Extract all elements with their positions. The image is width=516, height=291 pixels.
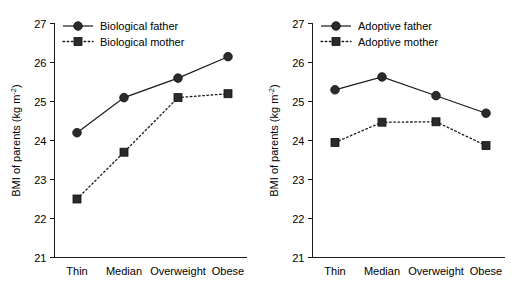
legend-entry: Biological father xyxy=(63,20,179,32)
x-axis-category-label: Thin xyxy=(66,265,87,277)
data-point-marker xyxy=(120,93,129,102)
y-axis-tick-label: 25 xyxy=(292,96,304,108)
x-axis-category-label: Obese xyxy=(212,265,244,277)
data-point-marker xyxy=(432,91,441,100)
y-axis-tick-label: 23 xyxy=(34,174,46,186)
data-point-marker xyxy=(224,52,233,61)
legend-label: Biological mother xyxy=(100,36,185,48)
y-axis-tick-label: 26 xyxy=(292,57,304,69)
y-axis-title: BMI of parents (kg m-2) xyxy=(267,84,280,196)
data-point-marker xyxy=(482,142,490,150)
chart-svg-left: 21222324252627ThinMedianOverweightObeseB… xyxy=(0,0,258,291)
legend-label: Adoptive father xyxy=(358,20,432,32)
y-axis-tick-label: 22 xyxy=(292,213,304,225)
legend-marker-square-icon xyxy=(74,38,82,46)
series-line xyxy=(335,122,486,146)
y-axis-tick-label: 21 xyxy=(34,252,46,264)
chart-panel-left: 21222324252627ThinMedianOverweightObeseB… xyxy=(0,0,258,291)
series-line xyxy=(77,57,228,133)
x-axis-category-label: Median xyxy=(106,265,142,277)
data-point-marker xyxy=(224,90,232,98)
x-axis-category-label: Thin xyxy=(324,265,345,277)
series-line xyxy=(335,77,486,113)
data-point-marker xyxy=(432,118,440,126)
data-point-marker xyxy=(482,109,491,118)
data-point-marker xyxy=(378,118,386,126)
data-point-marker xyxy=(174,74,183,83)
y-axis-tick-label: 22 xyxy=(34,213,46,225)
legend-marker-square-icon xyxy=(332,38,340,46)
legend-label: Adoptive mother xyxy=(358,36,438,48)
y-axis-tick-label: 23 xyxy=(292,174,304,186)
figure-container: 21222324252627ThinMedianOverweightObeseB… xyxy=(0,0,516,291)
legend-entry: Adoptive father xyxy=(321,20,432,32)
legend-entry: Biological mother xyxy=(63,36,185,48)
y-axis-tick-label: 24 xyxy=(292,135,304,147)
data-point-marker xyxy=(331,86,340,95)
y-axis-tick-label: 26 xyxy=(34,57,46,69)
y-axis-tick-label: 27 xyxy=(34,18,46,30)
legend-marker-circle-icon xyxy=(332,22,341,31)
series-line xyxy=(77,94,228,199)
y-axis-tick-label: 24 xyxy=(34,135,46,147)
legend-marker-circle-icon xyxy=(74,22,83,31)
data-point-marker xyxy=(174,94,182,102)
x-axis-category-label: Overweight xyxy=(408,265,464,277)
data-point-marker xyxy=(73,195,81,203)
y-axis-tick-label: 25 xyxy=(34,96,46,108)
y-axis-tick-label: 21 xyxy=(292,252,304,264)
x-axis-category-label: Obese xyxy=(470,265,502,277)
x-axis-category-label: Overweight xyxy=(150,265,206,277)
data-point-marker xyxy=(120,148,128,156)
chart-svg-right: 21222324252627ThinMedianOverweightObeseB… xyxy=(258,0,516,291)
legend-entry: Adoptive mother xyxy=(321,36,438,48)
data-point-marker xyxy=(73,128,82,137)
legend-label: Biological father xyxy=(100,20,179,32)
data-point-marker xyxy=(331,138,339,146)
x-axis-category-label: Median xyxy=(364,265,400,277)
y-axis-tick-label: 27 xyxy=(292,18,304,30)
y-axis-title: BMI of parents (kg m-2) xyxy=(9,84,22,196)
data-point-marker xyxy=(378,73,387,82)
chart-panel-right: 21222324252627ThinMedianOverweightObeseB… xyxy=(258,0,516,291)
